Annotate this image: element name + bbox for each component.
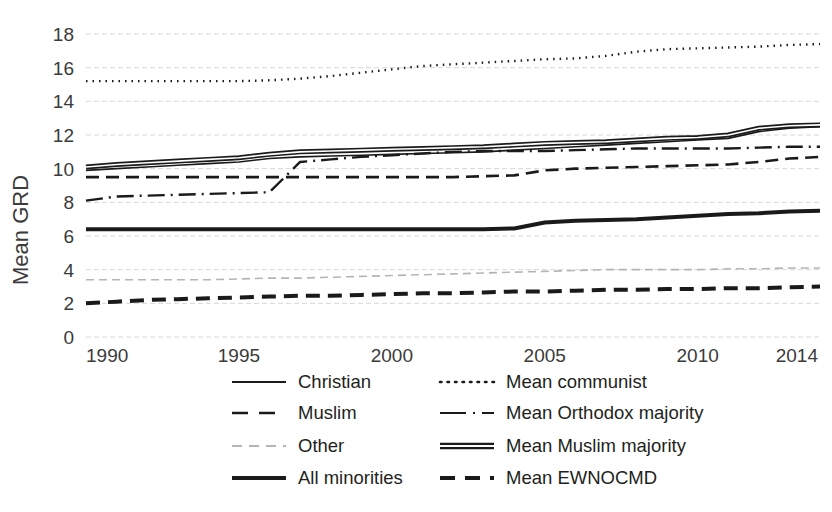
gridlines <box>86 34 820 337</box>
y-axis-title: Mean GRD <box>8 175 33 285</box>
chart-container: 024681012141618 199019952000200520102014… <box>0 0 832 512</box>
y-tick-label: 0 <box>63 327 74 348</box>
legend-label-muslim: Muslim <box>298 402 357 423</box>
y-tick-label: 6 <box>63 226 74 247</box>
legend-item-mean-communist[interactable]: Mean communist <box>440 371 647 392</box>
series-line-mean-communist <box>86 44 820 81</box>
x-tick-label: 1990 <box>86 345 128 366</box>
legend-label-christian: Christian <box>298 371 371 392</box>
x-axis-tick-labels: 199019952000200520102014 <box>86 345 818 366</box>
y-tick-label: 4 <box>63 260 74 281</box>
legend-label-all-minorities: All minorities <box>298 467 403 488</box>
legend-item-muslim[interactable]: Muslim <box>232 402 357 423</box>
series-line-mean-ewnocmd <box>86 287 820 304</box>
y-tick-label: 2 <box>63 293 74 314</box>
legend-label-mean-muslim-majority: Mean Muslim majority <box>506 435 687 456</box>
x-tick-label: 2000 <box>371 345 413 366</box>
y-tick-label: 12 <box>53 125 74 146</box>
legend-item-mean-ewnocmd[interactable]: Mean EWNOCMD <box>440 467 657 488</box>
y-tick-label: 16 <box>53 58 74 79</box>
chart-legend: ChristianMean communistMuslimMean Orthod… <box>232 371 704 488</box>
y-axis-title-text: Mean GRD <box>8 175 33 285</box>
x-tick-label: 2005 <box>524 345 566 366</box>
legend-item-other[interactable]: Other <box>232 435 344 456</box>
series-lines <box>86 44 820 303</box>
x-tick-label: 2014 <box>776 345 819 366</box>
x-tick-label: 1995 <box>218 345 260 366</box>
series-line-mean-orthodox-majority <box>86 147 820 201</box>
legend-item-all-minorities[interactable]: All minorities <box>232 467 403 488</box>
legend-label-mean-orthodox-majority: Mean Orthodox majority <box>506 402 704 423</box>
y-axis-tick-labels: 024681012141618 <box>53 24 75 348</box>
series-line-other <box>86 268 820 280</box>
legend-item-mean-muslim-majority[interactable]: Mean Muslim majority <box>440 435 687 456</box>
series-line-all-minorities <box>86 211 820 230</box>
legend-item-christian[interactable]: Christian <box>232 371 371 392</box>
mean-grd-line-chart: 024681012141618 199019952000200520102014… <box>0 0 832 512</box>
y-tick-label: 8 <box>63 192 74 213</box>
y-tick-label: 14 <box>53 91 75 112</box>
legend-label-other: Other <box>298 435 344 456</box>
legend-label-mean-ewnocmd: Mean EWNOCMD <box>506 467 657 488</box>
y-tick-label: 18 <box>53 24 74 45</box>
y-tick-label: 10 <box>53 159 74 180</box>
x-tick-label: 2010 <box>677 345 719 366</box>
legend-label-mean-communist: Mean communist <box>506 371 647 392</box>
legend-item-mean-orthodox-majority[interactable]: Mean Orthodox majority <box>440 402 704 423</box>
